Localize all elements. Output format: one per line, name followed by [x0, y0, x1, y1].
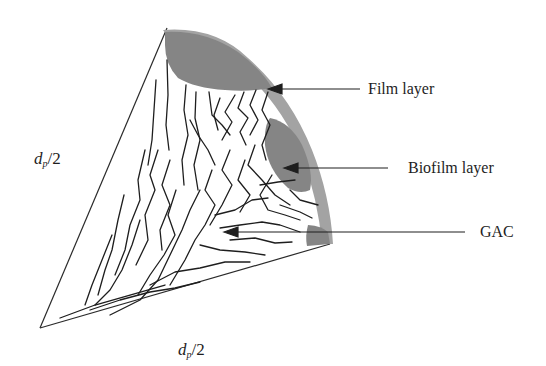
radius-bottom-var: d [178, 340, 187, 359]
gac-label: GAC [480, 224, 514, 240]
biofilm-layer-label: Biofilm layer [408, 160, 494, 176]
radius-bottom-label: dp/2 [178, 341, 205, 360]
film-layer-arrow [268, 84, 360, 94]
diagram-canvas [0, 0, 546, 366]
gac-arrow [224, 227, 465, 237]
radius-left-rest: /2 [48, 149, 61, 168]
radius-left-label: dp/2 [34, 150, 61, 169]
radius-left-var: d [34, 149, 43, 168]
radius-bottom-rest: /2 [192, 340, 205, 359]
film-layer-label: Film layer [368, 81, 434, 97]
gac-diagram: Film layer Biofilm layer GAC dp/2 dp/2 [0, 0, 546, 366]
